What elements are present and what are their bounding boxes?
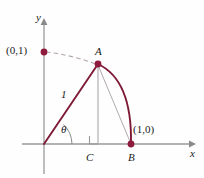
point-label-0-1: (0,1) xyxy=(6,45,27,56)
x-axis-label: x xyxy=(190,148,195,159)
dashed-unit-arc xyxy=(46,52,97,65)
axes-group xyxy=(22,18,196,174)
figure-canvas xyxy=(0,0,204,178)
right-angle-marker-icon xyxy=(90,136,99,144)
y-axis-arrow-icon xyxy=(41,18,48,25)
hypotenuse-length-label: 1 xyxy=(61,89,67,100)
point-label-1-0: (1,0) xyxy=(133,124,154,135)
geometry-figure: y x (0,1) (1,0) A B C 1 θ xyxy=(0,0,204,178)
point-label-c: C xyxy=(86,152,93,163)
point-b-marker xyxy=(128,141,135,148)
y-axis-label: y xyxy=(36,12,41,23)
point-a-marker xyxy=(95,61,102,68)
segment-origin-to-a xyxy=(44,64,98,144)
point-unit-y-marker xyxy=(41,49,48,56)
point-label-a: A xyxy=(95,46,102,57)
angle-theta-label: θ xyxy=(61,124,66,135)
point-label-b: B xyxy=(128,152,135,163)
